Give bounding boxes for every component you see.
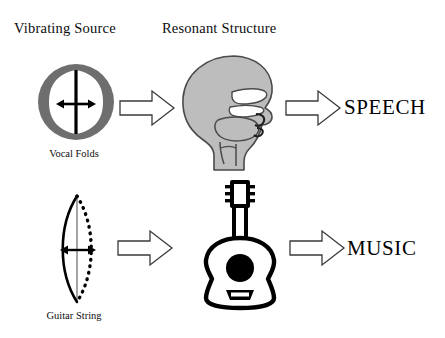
block-arrow-right-icon [116,228,174,268]
vocal-folds-icon [36,62,116,142]
vibrating-string-icon [44,190,114,308]
block-arrow-right-icon [118,88,176,128]
caption-guitar-string: Guitar String [14,310,134,321]
diagram-canvas: Vibrating Source Resonant Structure Voca… [0,0,445,338]
acoustic-guitar-icon [196,180,284,310]
column-header-vibrating-source: Vibrating Source [14,20,116,37]
output-label-speech: SPEECH [344,95,426,120]
caption-vocal-folds: Vocal Folds [14,148,134,159]
column-header-resonant-structure: Resonant Structure [162,20,276,37]
head-vocal-tract-icon [176,52,288,170]
block-arrow-right-icon [288,228,346,268]
block-arrow-right-icon [284,88,342,128]
output-label-music: MUSIC [347,236,417,261]
